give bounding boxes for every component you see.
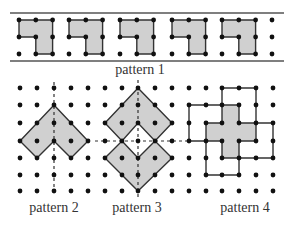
grid-dot — [134, 18, 139, 23]
grid-dot — [136, 189, 141, 194]
grid-dot — [220, 173, 225, 178]
grid-dot — [170, 35, 175, 40]
grid-dot — [153, 189, 158, 194]
grid-dot — [69, 189, 74, 194]
grid-dot — [186, 18, 191, 23]
grid-dot — [86, 121, 91, 126]
grid-dot — [18, 173, 23, 178]
grid-dot — [69, 103, 74, 108]
grid-dot — [204, 121, 209, 126]
grid-dot — [271, 173, 276, 178]
grid-dot — [237, 156, 242, 161]
grid-dot — [100, 35, 105, 40]
grid-dot — [254, 86, 259, 91]
grid-dot — [136, 86, 141, 91]
grid-dot — [18, 103, 23, 108]
grid-dot — [204, 103, 209, 108]
grid-dot — [86, 156, 91, 161]
grid-dot — [204, 139, 209, 144]
grid-dot — [220, 103, 225, 108]
grid-dot — [86, 86, 91, 91]
grid-dot — [35, 156, 40, 161]
grid-dot — [52, 189, 57, 194]
grid-dot — [136, 173, 141, 178]
grid-dot — [100, 18, 105, 23]
grid-dot — [35, 86, 40, 91]
grid-dot — [120, 156, 125, 161]
grid-dot — [136, 156, 141, 161]
grid-dot — [83, 52, 88, 57]
grid-dot — [18, 156, 23, 161]
grid-dot — [220, 52, 225, 57]
grid-dot — [50, 52, 55, 57]
grid-dot — [254, 189, 259, 194]
grid-dot — [17, 52, 22, 57]
grid-dot — [204, 86, 209, 91]
grid-dot — [17, 35, 22, 40]
grid-dot — [52, 121, 57, 126]
grid-dot — [153, 139, 158, 144]
grid-dot — [52, 173, 57, 178]
grid-dot — [151, 35, 156, 40]
grid-dot — [220, 156, 225, 161]
grid-dot — [220, 139, 225, 144]
grid-dot — [83, 35, 88, 40]
grid-dot — [103, 121, 108, 126]
grid-dot — [120, 139, 125, 144]
grid-dot — [236, 52, 241, 57]
grid-dot — [120, 173, 125, 178]
grid-dot — [253, 18, 258, 23]
grid-dot — [103, 139, 108, 144]
pattern-3-label: pattern 3 — [112, 201, 161, 215]
grid-dot — [170, 52, 175, 57]
grid-dot — [187, 156, 192, 161]
grid-dot — [153, 103, 158, 108]
grid-dot — [237, 86, 242, 91]
grid-dot — [254, 121, 259, 126]
grid-dot — [220, 189, 225, 194]
grid-dot — [86, 173, 91, 178]
grid-dot — [18, 86, 23, 91]
grid-dot — [86, 103, 91, 108]
grid-dot — [271, 139, 276, 144]
grid-dot — [136, 103, 141, 108]
grid-dot — [187, 173, 192, 178]
grid-dot — [254, 103, 259, 108]
grid-dot — [254, 139, 259, 144]
grid-dot — [170, 173, 175, 178]
grid-dot — [100, 52, 105, 57]
grid-dot — [237, 173, 242, 178]
grid-dot — [35, 103, 40, 108]
grid-dot — [35, 139, 40, 144]
grid-dot — [237, 139, 242, 144]
grid-dot — [270, 35, 275, 40]
grid-dot — [118, 35, 123, 40]
grid-dot — [203, 18, 208, 23]
grid-dot — [50, 35, 55, 40]
grid-dot — [204, 173, 209, 178]
grid-dot — [204, 189, 209, 194]
grid-dot — [153, 86, 158, 91]
grid-dot — [236, 18, 241, 23]
grid-dot — [236, 35, 241, 40]
grid-dot — [134, 52, 139, 57]
grid-dot — [118, 18, 123, 23]
grid-dot — [220, 18, 225, 23]
grid-dot — [120, 86, 125, 91]
grid-dot — [136, 121, 141, 126]
pattern-1-label: pattern 1 — [115, 63, 164, 77]
grid-dot — [67, 52, 72, 57]
grid-dot — [86, 139, 91, 144]
grid-dot — [187, 189, 192, 194]
grid-dot — [271, 121, 276, 126]
grid-dot — [103, 86, 108, 91]
grid-dot — [69, 139, 74, 144]
grid-dot — [186, 35, 191, 40]
grid-dot — [151, 18, 156, 23]
grid-dot — [103, 103, 108, 108]
grid-dot — [153, 121, 158, 126]
grid-dot — [103, 156, 108, 161]
grid-dot — [237, 189, 242, 194]
grid-dot — [83, 18, 88, 23]
grid-dot — [17, 18, 22, 23]
